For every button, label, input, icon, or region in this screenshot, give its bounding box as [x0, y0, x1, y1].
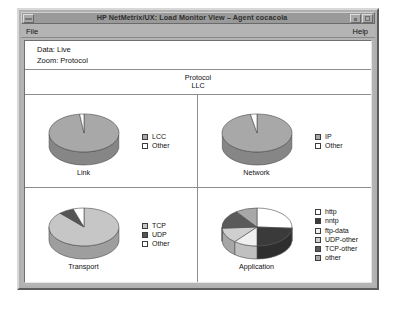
pie-chart-link [41, 106, 127, 166]
legend-swatch-icon [315, 143, 321, 149]
legend-swatch-icon [142, 232, 148, 238]
legend-swatch-icon [142, 143, 148, 149]
legend-row[interactable]: TCP-other [315, 245, 371, 253]
legend-application: httpnntpftp-dataUDP-otherTCP-otherother [309, 208, 371, 263]
status-data: Data: Live [37, 45, 371, 56]
legend-swatch-icon [315, 255, 321, 261]
pie-title-network: Network [243, 168, 269, 177]
menu-bar: File Help [21, 25, 375, 38]
window-buttons [350, 14, 373, 23]
status-zoom: Zoom: Protocol [37, 56, 371, 67]
legend-swatch-icon [315, 218, 321, 224]
legend-label: ftp-data [325, 227, 349, 235]
legend-label: TCP-other [325, 245, 357, 253]
pie-wrap-network: Network [204, 106, 309, 177]
legend-label: nntp [325, 217, 339, 225]
legend-swatch-icon [315, 228, 321, 234]
pie-chart-transport [41, 200, 127, 260]
title-bar[interactable]: HP NetMetrix/UX: Load Monitor View – Age… [21, 12, 375, 24]
legend-label: UDP [152, 231, 167, 239]
legend-label: LCC [152, 133, 166, 141]
legend-row[interactable]: other [315, 254, 371, 262]
legend-row[interactable]: UDP-other [315, 236, 371, 244]
client-area: Data: Live Zoom: Protocol Protocol LLC L… [24, 40, 372, 283]
legend-swatch-icon [315, 209, 321, 215]
legend-label: http [325, 208, 337, 216]
pie-title-link: Link [77, 168, 90, 177]
legend-row[interactable]: UDP [142, 231, 197, 239]
maximize-icon[interactable] [362, 14, 373, 23]
legend-row[interactable]: LCC [142, 133, 197, 141]
legend-swatch-icon [315, 134, 321, 140]
chart-panel-network[interactable]: Network IPOther [198, 95, 371, 189]
legend-row[interactable]: Other [315, 142, 371, 150]
menu-item-help[interactable]: Help [350, 26, 371, 37]
legend-label: Other [325, 142, 343, 150]
legend-row[interactable]: TCP [142, 222, 197, 230]
legend-swatch-icon [142, 223, 148, 229]
pie-chart-network [214, 106, 300, 166]
chart-panel-application[interactable]: Application httpnntpftp-dataUDP-otherTCP… [198, 188, 371, 282]
pie-title-application: Application [239, 262, 274, 271]
pie-wrap-link: Link [31, 106, 136, 177]
legend-label: TCP [152, 222, 166, 230]
legend-label: other [325, 254, 341, 262]
legend-link: LCCOther [136, 132, 197, 150]
status-area: Data: Live Zoom: Protocol [25, 41, 371, 70]
legend-swatch-icon [315, 246, 321, 252]
legend-row[interactable]: ftp-data [315, 227, 371, 235]
chart-header-line2: LLC [25, 82, 371, 90]
legend-swatch-icon [142, 134, 148, 140]
chart-header: Protocol LLC [25, 70, 371, 95]
menu-item-file[interactable]: File [23, 26, 41, 37]
window-menu-icon[interactable] [23, 14, 34, 23]
legend-label: IP [325, 133, 332, 141]
legend-label: UDP-other [325, 236, 358, 244]
legend-network: IPOther [309, 132, 371, 150]
pie-title-transport: Transport [68, 262, 99, 271]
application-window: HP NetMetrix/UX: Load Monitor View – Age… [17, 8, 379, 290]
window-inner: HP NetMetrix/UX: Load Monitor View – Age… [21, 12, 375, 286]
legend-row[interactable]: nntp [315, 217, 371, 225]
legend-row[interactable]: Other [142, 142, 197, 150]
chart-panel-link[interactable]: Link LCCOther [25, 95, 198, 189]
window-title: HP NetMetrix/UX: Load Monitor View – Age… [34, 13, 350, 23]
pie-chart-application [214, 200, 300, 260]
legend-row[interactable]: http [315, 208, 371, 216]
legend-swatch-icon [315, 237, 321, 243]
legend-label: Other [152, 240, 170, 248]
legend-label: Other [152, 142, 170, 150]
chart-panel-transport[interactable]: Transport TCPUDPOther [25, 188, 198, 282]
legend-swatch-icon [142, 241, 148, 247]
pie-wrap-application: Application [204, 200, 309, 271]
legend-row[interactable]: Other [142, 240, 197, 248]
chart-grid: Link LCCOther Network IPOther [25, 95, 371, 282]
legend-row[interactable]: IP [315, 133, 371, 141]
minimize-icon[interactable] [350, 14, 361, 23]
screen: HP NetMetrix/UX: Load Monitor View – Age… [0, 0, 396, 312]
legend-transport: TCPUDPOther [136, 221, 197, 249]
pie-wrap-transport: Transport [31, 200, 136, 271]
